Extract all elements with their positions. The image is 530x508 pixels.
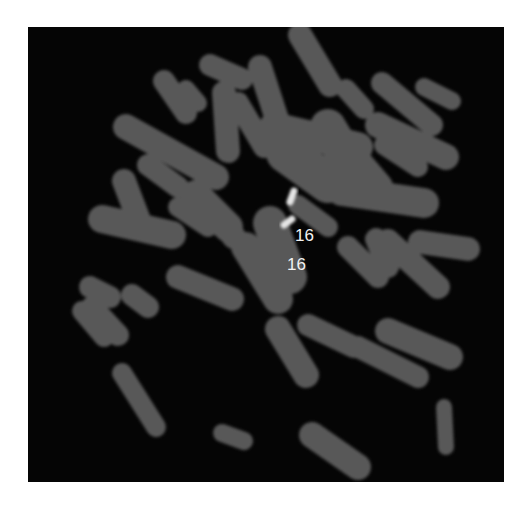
chromosome [298, 205, 328, 227]
micrograph-panel: 16 16 [28, 27, 504, 482]
chromosome [286, 153, 328, 183]
fish-signal [290, 191, 294, 202]
chromosome [300, 35, 330, 85]
chromosome [186, 89, 198, 103]
chromosome [178, 277, 232, 299]
chromosome [210, 65, 242, 79]
chromosome [388, 331, 450, 357]
chromosome [132, 295, 148, 307]
chromosome-label-16-b: 16 [287, 256, 306, 273]
chromosome [424, 87, 452, 101]
chromosome [122, 373, 156, 427]
chromosome [346, 89, 364, 109]
chromosome [148, 165, 178, 187]
chromosome [222, 433, 244, 441]
chromosome [218, 217, 234, 237]
chromosome [278, 329, 306, 375]
fish-signal [284, 219, 292, 225]
chromosome [90, 287, 110, 297]
chromosome [308, 325, 354, 347]
chromosome [312, 435, 358, 467]
chromosome-label-16-a: 16 [295, 227, 314, 244]
chromosome [102, 219, 172, 235]
chromosome-spread [28, 27, 504, 482]
chromosome [342, 191, 424, 203]
chromosome [444, 407, 446, 447]
chromosome [420, 242, 468, 249]
